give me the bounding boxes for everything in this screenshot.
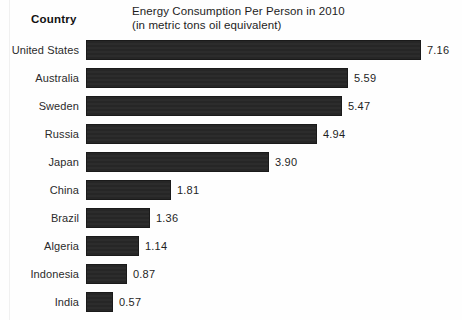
category-label: Japan xyxy=(0,150,79,174)
chart-row: Sweden5.47 xyxy=(0,94,462,118)
chart-row: China1.81 xyxy=(0,178,462,202)
category-label: Russia xyxy=(0,122,79,146)
bar-value-label: 0.87 xyxy=(133,262,155,286)
bar xyxy=(86,236,139,256)
bar-chart-plot-area: United States7.16Australia5.59Sweden5.47… xyxy=(0,38,462,320)
chart-row: Russia4.94 xyxy=(0,122,462,146)
bar xyxy=(86,124,317,144)
bar xyxy=(86,180,171,200)
bar-value-label: 5.47 xyxy=(348,94,370,118)
country-column-header: Country xyxy=(31,13,111,25)
bar xyxy=(86,152,269,172)
chart-row: United States7.16 xyxy=(0,38,462,62)
bar-value-label: 1.14 xyxy=(145,234,167,258)
chart-title-text: Energy Consumption Per Person in 2010 xyxy=(132,5,345,17)
category-label: Brazil xyxy=(0,206,79,230)
bar-value-label: 5.59 xyxy=(354,66,376,90)
category-label: Indonesia xyxy=(0,262,79,286)
bar xyxy=(86,208,150,228)
category-label: China xyxy=(0,178,79,202)
chart-page: Country Energy Consumption Per Person in… xyxy=(0,0,462,320)
bar-value-label: 0.57 xyxy=(119,290,141,314)
bar xyxy=(86,292,113,312)
chart-row: Algeria1.14 xyxy=(0,234,462,258)
bar-value-label: 7.16 xyxy=(427,38,449,62)
chart-row: Indonesia0.87 xyxy=(0,262,462,286)
bar-value-label: 1.36 xyxy=(156,206,178,230)
chart-row: Japan3.90 xyxy=(0,150,462,174)
bar xyxy=(86,264,127,284)
bar-value-label: 3.90 xyxy=(275,150,297,174)
category-label: Australia xyxy=(0,66,79,90)
bar-value-label: 1.81 xyxy=(177,178,199,202)
bar xyxy=(86,68,348,88)
bar-value-label: 4.94 xyxy=(323,122,345,146)
category-label: India xyxy=(0,290,79,314)
chart-subtitle-text: (in metric tons oil equivalent) xyxy=(132,18,432,32)
chart-row: Brazil1.36 xyxy=(0,206,462,230)
category-label: Algeria xyxy=(0,234,79,258)
category-label: Sweden xyxy=(0,94,79,118)
category-label: United States xyxy=(0,38,79,62)
bar xyxy=(86,40,421,60)
chart-row: Australia5.59 xyxy=(0,66,462,90)
chart-row: India0.57 xyxy=(0,290,462,314)
bar xyxy=(86,96,342,116)
chart-title-block: Energy Consumption Per Person in 2010 (i… xyxy=(132,4,432,32)
